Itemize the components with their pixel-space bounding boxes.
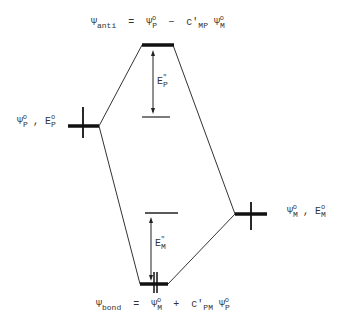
connector-left-bond (99, 126, 140, 284)
bond-equation: Ψbond = ΨMo + c'PM ΨPo (96, 297, 229, 312)
arrowhead-down-icon (151, 108, 155, 114)
lower-gap-label: EM" (155, 236, 165, 251)
left-level-label: ΨPo , EPo (17, 114, 55, 129)
upper-gap-label: EP" (157, 74, 167, 89)
arrowhead-up-icon (149, 217, 153, 223)
connector-anti-right (173, 45, 235, 214)
mo-diagram (0, 0, 343, 325)
right-level-label: ΨMo , EMo (287, 204, 325, 219)
connector-bond-right (168, 214, 235, 284)
anti-equation: Ψanti = ΨPo − c'MP ΨMo (91, 15, 224, 30)
connector-left-anti (99, 45, 142, 126)
arrowhead-down-icon (149, 275, 153, 281)
arrowhead-up-icon (151, 50, 155, 56)
